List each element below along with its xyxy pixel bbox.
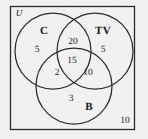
region-count-tv-only: 5 <box>101 46 106 56</box>
region-count-b-only: 3 <box>69 95 74 105</box>
set-circle-c <box>15 13 91 89</box>
set-label-tv: TV <box>95 26 111 37</box>
set-label-b: B <box>85 102 93 113</box>
region-count-outside: 10 <box>120 117 130 127</box>
region-count-all-three: 15 <box>67 57 77 67</box>
venn-diagram-figure: U C TV B 5 5 20 15 2 10 3 10 <box>0 0 148 139</box>
region-count-c-and-b: 2 <box>55 69 60 79</box>
universal-set-label: U <box>16 9 23 18</box>
region-count-c-and-tv: 20 <box>68 38 78 48</box>
region-count-c-only: 5 <box>35 46 40 56</box>
region-count-tv-and-b: 10 <box>83 69 93 79</box>
universal-set-rectangle <box>11 7 135 130</box>
set-label-c: C <box>40 26 48 37</box>
